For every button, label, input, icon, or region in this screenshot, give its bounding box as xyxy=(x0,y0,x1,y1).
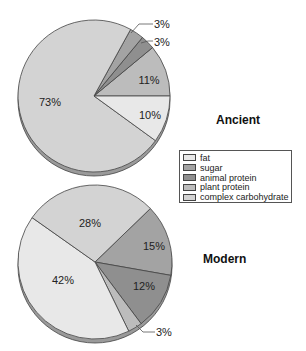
slice-label-fat: 42% xyxy=(52,274,74,286)
slice-label-plant-protein: 11% xyxy=(138,74,159,86)
slice-label-animal-protein: 12% xyxy=(133,280,155,292)
legend-item-sugar: sugar xyxy=(183,163,288,173)
slice-label-sugar: 3% xyxy=(154,36,170,48)
slice-label-fat: 10% xyxy=(139,109,161,121)
legend-item-fat: fat xyxy=(183,153,288,163)
legend-label: plant protein xyxy=(200,182,250,192)
slice-label-complex-carbohydrate: 73% xyxy=(39,96,61,108)
modern-pie-chart: 42%15%12%28%3% xyxy=(18,185,172,343)
legend-item-animal-protein: animal protein xyxy=(183,173,288,183)
legend: fat sugar animal protein plant protein c… xyxy=(179,150,292,203)
legend-label: animal protein xyxy=(200,173,257,183)
slice-label-animal-protein: 3% xyxy=(154,18,170,30)
legend-swatch-complex-carbohydrate xyxy=(183,194,196,201)
legend-swatch-fat xyxy=(183,154,196,161)
ancient-pie-chart: 10%11%73%3%3% xyxy=(18,18,170,176)
legend-item-complex-carbohydrate: complex carbohydrate xyxy=(183,192,288,202)
slice-label-complex-carbohydrate: 28% xyxy=(79,217,101,229)
slice-label-plant-protein: 3% xyxy=(156,326,172,338)
legend-swatch-plant-protein xyxy=(183,184,196,191)
modern-title: Modern xyxy=(203,252,246,266)
legend-item-plant-protein: plant protein xyxy=(183,182,288,192)
slice-label-sugar: 15% xyxy=(143,240,165,252)
legend-swatch-sugar xyxy=(183,164,196,171)
ancient-title: Ancient xyxy=(216,113,260,127)
legend-label: sugar xyxy=(200,163,223,173)
legend-label: complex carbohydrate xyxy=(200,192,289,202)
legend-label: fat xyxy=(200,153,210,163)
legend-swatch-animal-protein xyxy=(183,174,196,181)
